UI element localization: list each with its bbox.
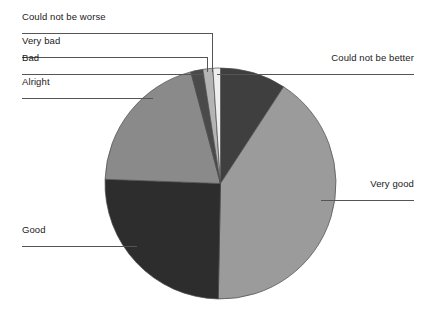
pie-chart-canvas: Could not be betterVery goodGoodAlrightB…: [0, 0, 435, 316]
pie-chart-figure: Could not be betterVery goodGoodAlrightB…: [0, 0, 435, 316]
slice-label-could-not-be-better: Could not be better: [331, 52, 414, 63]
slice-label-very-bad: Very bad: [22, 35, 60, 46]
pie-slice-good[interactable]: Good: [105, 179, 220, 299]
pie-slice-group: Could not be betterVery goodGoodAlrightB…: [105, 68, 336, 299]
slice-label-alright: Alright: [22, 76, 50, 87]
leader-line-very-bad: [22, 58, 208, 73]
slice-label-very-good: Very good: [370, 178, 414, 189]
slice-label-good: Good: [22, 224, 46, 235]
slice-label-bad: Bad: [22, 52, 39, 63]
slice-label-could-not-be-worse: Could not be worse: [22, 11, 106, 22]
